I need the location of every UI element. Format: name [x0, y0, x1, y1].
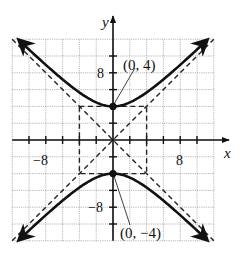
hyperbola-graph: y x −8 8 8 −8 (0, 4) (0, −4)	[0, 0, 240, 270]
vertex-label-top: (0, 4)	[123, 57, 156, 74]
leader-line-top	[114, 68, 135, 104]
tick-label-x-neg8: −8	[33, 153, 48, 168]
leader-line-bottom	[114, 176, 130, 225]
tick-label-x-pos8: 8	[176, 153, 183, 168]
vertex-point-bottom	[109, 170, 116, 177]
tick-label-y-pos8: 8	[97, 66, 104, 81]
y-axis-label: y	[100, 14, 109, 30]
tick-label-y-neg8: −8	[88, 200, 103, 215]
vertex-label-bottom: (0, −4)	[120, 225, 161, 242]
vertex-point-top	[109, 103, 116, 110]
x-axis-label: x	[223, 145, 231, 161]
